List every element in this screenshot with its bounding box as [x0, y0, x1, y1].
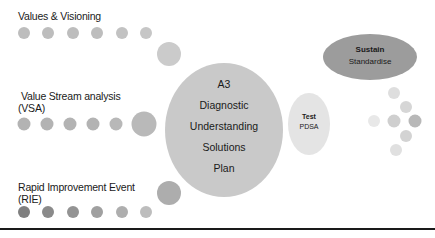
vsa-dot	[87, 118, 100, 131]
arrow-dot	[388, 87, 400, 99]
rie-label-line2: (RIE)	[18, 193, 42, 205]
rie-dot	[42, 206, 54, 218]
vsa-dot-row	[18, 118, 123, 131]
rie-label-line1: Rapid Improvement Event	[18, 181, 135, 193]
rie-dot	[116, 206, 128, 218]
arrow-dot	[388, 115, 401, 128]
rie-dot	[140, 206, 152, 218]
arrow-dot	[400, 101, 412, 113]
test-subtitle: PDSA	[288, 122, 330, 132]
values-dot	[67, 27, 79, 39]
vsa-label-line2: (VSA)	[18, 102, 45, 114]
arrow-dot	[409, 115, 422, 128]
values-dot	[91, 27, 103, 39]
values-dot-row	[18, 27, 152, 39]
bottom-divider	[0, 228, 435, 230]
arrow-dot	[390, 144, 402, 156]
rie-dot-row	[18, 206, 152, 218]
a3-line-understanding: Understanding	[165, 116, 283, 137]
sustain-subtitle: Standardise	[323, 56, 417, 68]
arrow-dot	[368, 115, 380, 127]
a3-line-plan: Plan	[165, 158, 283, 179]
vsa-label-line1: Value Stream analysis	[21, 90, 121, 102]
vsa-dot	[110, 118, 123, 131]
rie-dot	[18, 206, 30, 218]
a3-line-solutions: Solutions	[165, 137, 283, 158]
a3-line-diagnostic: Diagnostic	[165, 95, 283, 116]
arrow-dot	[400, 130, 412, 142]
arrow-dot-cluster	[368, 87, 422, 156]
values-dot	[116, 27, 128, 39]
vsa-dot	[64, 118, 77, 131]
values-dot	[140, 27, 152, 39]
vsa-dot	[41, 118, 54, 131]
rie-connector-dot	[157, 181, 181, 205]
a3-text-block: A3 Diagnostic Understanding Solutions Pl…	[165, 74, 283, 179]
values-dot	[18, 27, 30, 39]
sustain-text-block: Sustain Standardise	[323, 44, 417, 68]
values-dot	[42, 27, 54, 39]
rie-dot	[91, 206, 103, 218]
values-visioning-label: Values & Visioning	[18, 10, 101, 22]
vsa-dot	[18, 118, 31, 131]
test-title: Test	[288, 112, 330, 122]
values-connector-dot	[157, 42, 181, 66]
test-text-block: Test PDSA	[288, 112, 330, 132]
rie-dot	[67, 206, 79, 218]
improvement-diagram: Values & Visioning Value Stream analysis…	[0, 0, 435, 238]
a3-title: A3	[165, 74, 283, 95]
vsa-connector-dot	[132, 112, 157, 137]
sustain-title: Sustain	[323, 44, 417, 56]
